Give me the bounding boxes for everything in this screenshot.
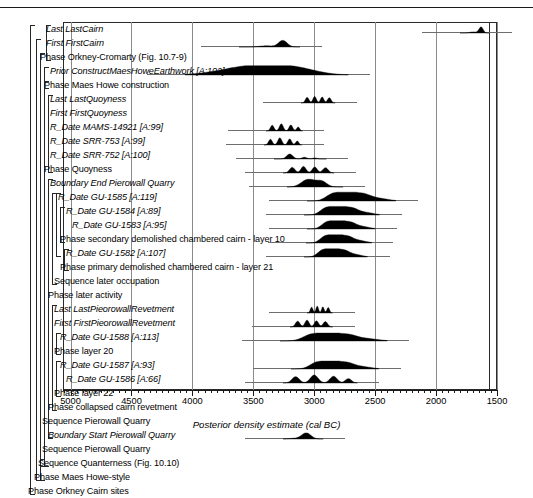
model-row[interactable]: Sequence later occupation xyxy=(0,274,533,288)
tick-3700 xyxy=(229,390,230,393)
row-label: Phase Orkney-Cromarty (Fig. 10.7-9) xyxy=(40,50,187,64)
tick-4950 xyxy=(77,390,78,393)
tick-3900 xyxy=(205,390,206,393)
tick-label-4000: 4000 xyxy=(182,396,203,406)
row-label: Phase Maes Howe construction xyxy=(44,78,169,92)
model-row[interactable]: Phase later activity xyxy=(0,288,533,302)
row-label: Phase layer 20 xyxy=(54,344,113,358)
tick-3200 xyxy=(290,390,291,393)
tick-1650 xyxy=(479,390,480,393)
model-row[interactable]: R_Date GU-1588 [A:113] xyxy=(0,330,533,344)
model-rows: Last LastCairnFirst FirstCairnPhase Orkn… xyxy=(0,22,533,390)
model-row[interactable]: R_Date GU-1585 [A:119] xyxy=(0,190,533,204)
row-label: Phase secondary demolished chambered cai… xyxy=(60,232,285,246)
posterior-density xyxy=(274,148,326,162)
tick-4450 xyxy=(138,390,139,393)
tick-1800 xyxy=(460,390,461,393)
posterior-density xyxy=(239,36,300,50)
tick-label-2500: 2500 xyxy=(365,396,386,406)
tick-3650 xyxy=(235,390,236,393)
tick-3150 xyxy=(296,390,297,393)
posterior-density xyxy=(280,330,387,344)
model-row[interactable]: Phase layer 20 xyxy=(0,344,533,358)
row-label: Phase Quoyness xyxy=(44,162,112,176)
posterior-density xyxy=(283,162,334,176)
tick-4700 xyxy=(107,390,108,393)
tick-2400 xyxy=(387,390,388,393)
tick-2900 xyxy=(326,390,327,393)
tick-3450 xyxy=(259,390,260,393)
model-row[interactable]: Last LastPieorowallRevetment xyxy=(0,302,533,316)
model-row[interactable]: Last LastCairn xyxy=(0,22,533,36)
tick-3350 xyxy=(272,390,273,393)
tick-4650 xyxy=(113,390,114,393)
posterior-density xyxy=(307,218,375,232)
tick-2150 xyxy=(418,390,419,393)
model-row[interactable]: Last LastQuoyness xyxy=(0,92,533,106)
tick-label-3000: 3000 xyxy=(304,396,325,406)
tick-label-2000: 2000 xyxy=(426,396,447,406)
row-label: Sequence Quanterness (Fig. 10.10) xyxy=(38,456,179,470)
model-row[interactable]: R_Date GU-1586 [A:66] xyxy=(0,372,533,386)
top-horizontal-rule xyxy=(0,7,533,8)
posterior-density xyxy=(283,372,357,386)
tick-5050 xyxy=(64,390,65,393)
posterior-density xyxy=(291,358,379,372)
model-row[interactable]: Phase Maes Howe-style xyxy=(0,470,533,484)
model-row[interactable]: R_Date SRR-752 [A:100] xyxy=(0,148,533,162)
row-label: Phase primary demolished chambered cairn… xyxy=(60,260,273,274)
row-label: Boundary Start Pierowall Quarry xyxy=(48,428,175,442)
model-row[interactable]: R_Date GU-1584 [A:89] xyxy=(0,204,533,218)
posterior-density xyxy=(306,232,372,246)
posterior-density xyxy=(301,92,335,106)
tick-label-4500: 4500 xyxy=(121,396,142,406)
row-label: First FirstPieorowallRevetment xyxy=(54,316,175,330)
posterior-density xyxy=(304,204,380,218)
posterior-density xyxy=(304,246,367,260)
model-row[interactable]: Boundary Start Pierowall Quarry xyxy=(0,428,533,442)
tick-3550 xyxy=(247,390,248,393)
row-label: R_Date GU-1582 [A:107] xyxy=(66,246,165,260)
model-row[interactable]: Phase Orkney Cairn sites xyxy=(0,484,533,498)
tick-4400 xyxy=(144,390,145,393)
posterior-density xyxy=(264,134,302,148)
tick-3850 xyxy=(211,390,212,393)
model-row[interactable]: First FirstPieorowallRevetment xyxy=(0,316,533,330)
tick-1700 xyxy=(473,390,474,393)
posterior-density xyxy=(290,316,333,330)
model-row[interactable]: R_Date GU-1583 [A:95] xyxy=(0,218,533,232)
row-label: R_Date GU-1588 [A:113] xyxy=(60,330,159,344)
row-label: R_Date SRR-753 [A:99] xyxy=(50,134,145,148)
model-row[interactable]: Sequence Pierowall Quarry xyxy=(0,442,533,456)
model-row[interactable]: R_Date GU-1582 [A:107] xyxy=(0,246,533,260)
tick-4250 xyxy=(162,390,163,393)
tick-2600 xyxy=(363,390,364,393)
tick-1550 xyxy=(491,390,492,393)
posterior-density xyxy=(307,302,333,316)
tick-label-5000: 5000 xyxy=(60,396,81,406)
tick-4200 xyxy=(168,390,169,393)
model-row[interactable]: First FirstCairn xyxy=(0,36,533,50)
model-row[interactable]: Phase Orkney-Cromarty (Fig. 10.7-9) xyxy=(0,50,533,64)
model-row[interactable]: Boundary End Pierowall Quarry xyxy=(0,176,533,190)
tick-4300 xyxy=(156,390,157,393)
model-row[interactable]: Phase secondary demolished chambered cai… xyxy=(0,232,533,246)
tick-3300 xyxy=(278,390,279,393)
tick-4800 xyxy=(95,390,96,393)
row-label: Phase Maes Howe-style xyxy=(34,470,130,484)
tick-4550 xyxy=(125,390,126,393)
model-row[interactable]: Sequence Quanterness (Fig. 10.10) xyxy=(0,456,533,470)
row-label: Last LastPieorowallRevetment xyxy=(54,302,174,316)
model-row[interactable]: Phase Maes Howe construction xyxy=(0,78,533,92)
model-row[interactable]: R_Date MAMS-14921 [A:99] xyxy=(0,120,533,134)
model-row[interactable]: R_Date SRR-753 [A:99] xyxy=(0,134,533,148)
model-row[interactable]: Prior ConstructMaesHoweEarthwork [A:102] xyxy=(0,64,533,78)
model-row[interactable]: Phase primary demolished chambered cairn… xyxy=(0,260,533,274)
model-row[interactable]: Phase Quoyness xyxy=(0,162,533,176)
tick-1600 xyxy=(485,390,486,393)
row-label: R_Date MAMS-14921 [A:99] xyxy=(50,120,163,134)
tick-4900 xyxy=(83,390,84,393)
model-row[interactable]: R_Date GU-1587 [A:93] xyxy=(0,358,533,372)
model-row[interactable]: First FirstQuoyness xyxy=(0,106,533,120)
posterior-density xyxy=(287,176,343,190)
